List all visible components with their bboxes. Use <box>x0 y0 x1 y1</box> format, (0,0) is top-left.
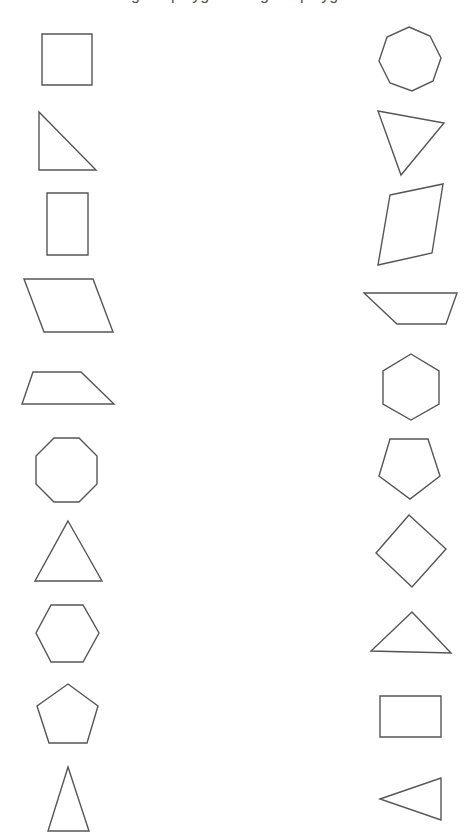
shape-rotated-octagon <box>379 27 441 91</box>
shape-diamond <box>376 515 446 587</box>
shape-obtuse-triangle <box>371 612 451 653</box>
shape-rectangle-portrait <box>47 193 88 255</box>
shape-parallelogram <box>24 279 113 332</box>
shape-octagon <box>36 438 97 502</box>
shape-inverted-pentagon <box>379 439 440 499</box>
shape-left-pointing-triangle <box>380 778 441 820</box>
shape-equilateral-triangle <box>35 521 102 581</box>
shape-right-triangle <box>39 112 96 170</box>
shape-hexagon <box>36 605 99 662</box>
shape-isosceles-triangle <box>48 767 89 831</box>
shape-hexagon-pointy <box>383 354 439 420</box>
shape-square <box>42 34 92 85</box>
shape-rhombus <box>378 184 443 265</box>
shape-rectangle-landscape <box>380 696 441 737</box>
shape-scalene-triangle <box>378 111 444 175</box>
shape-pentagon <box>37 684 98 743</box>
shapes-canvas <box>0 0 471 833</box>
shape-trapezoid <box>22 372 114 404</box>
shape-inverted-trapezoid <box>364 293 457 324</box>
right-column <box>364 27 457 820</box>
left-column <box>22 34 114 831</box>
